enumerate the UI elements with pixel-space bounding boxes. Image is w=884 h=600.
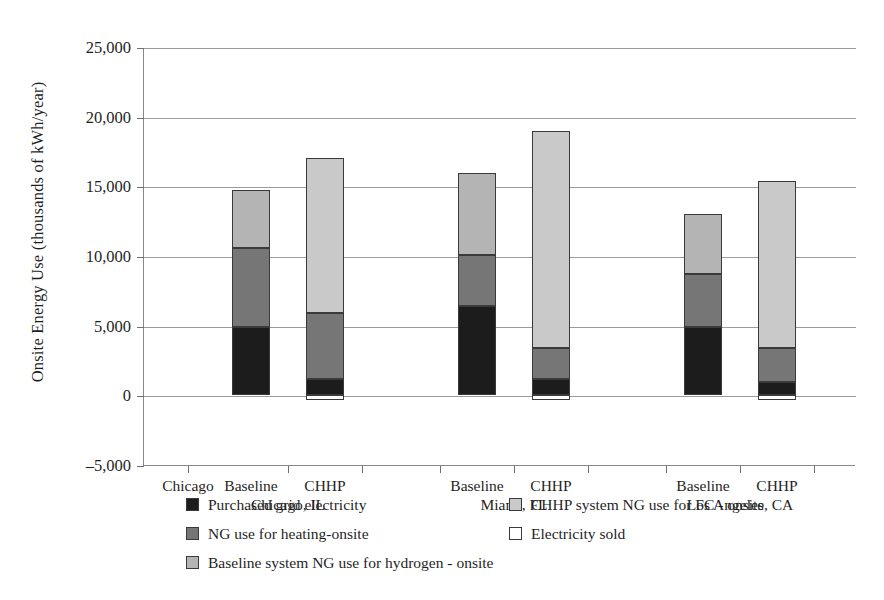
y-axis-tick-label: 10,000 [86,247,131,267]
x-axis-tick [588,466,589,473]
bar-segment[interactable] [532,131,570,348]
bar-segment[interactable] [306,395,344,400]
y-axis-tick [137,257,144,258]
chart-container: Onsite Energy Use (thousands of kWh/year… [0,0,884,600]
bar-segment[interactable] [758,382,796,395]
bar-segment[interactable] [684,274,722,327]
legend-swatch-icon [186,556,199,569]
bar-segment[interactable] [532,348,570,379]
x-axis-tick [440,466,441,473]
bar-stack[interactable] [684,47,722,465]
x-axis-tick [362,466,363,473]
bar-segment[interactable] [458,173,496,255]
y-axis-tick-label: 25,000 [86,38,131,58]
x-axis-tick [814,466,815,473]
bar-segment[interactable] [306,379,344,396]
bar-segment[interactable] [232,190,270,248]
bar-stack[interactable] [758,47,796,465]
legend-item-label: CHHP system NG use for FC - onsite [531,496,764,514]
legend-column-left: Purchased grid electricityNG use for hea… [186,492,516,579]
bar-segment[interactable] [232,248,270,327]
y-axis-tick [137,118,144,119]
x-axis-tick [288,466,289,473]
bar-stack[interactable] [458,47,496,465]
legend-swatch-icon [186,527,199,540]
bar-segment[interactable] [306,158,344,313]
bar-segment[interactable] [758,181,796,348]
legend-item-label: Electricity sold [531,525,625,543]
bar-segment[interactable] [684,214,722,274]
y-axis-tick-label: –5,000 [86,456,131,476]
y-axis-tick-label: 15,000 [86,177,131,197]
y-axis-tick-label: 5,000 [94,317,131,337]
y-axis-tick [137,187,144,188]
bar-segment[interactable] [232,327,270,395]
bar-segment[interactable] [758,348,796,382]
bar-stack[interactable] [306,47,344,465]
x-axis-tick [514,466,515,473]
y-axis-tick [137,466,144,467]
x-axis-tick [188,466,189,473]
bar-segment[interactable] [458,306,496,395]
bar-segment[interactable] [306,313,344,378]
legend-item[interactable]: NG use for heating-onsite [186,521,516,546]
plot-area: ChicagoBaselineChicago, ILCHHPBaselineMi… [143,48,855,466]
y-axis-tick [137,327,144,328]
bar-segment[interactable] [684,327,722,395]
x-axis-tick [666,466,667,473]
y-axis-tick [137,396,144,397]
legend-item[interactable]: Electricity sold [509,521,849,546]
y-axis-tick-label: 0 [123,386,131,406]
y-axis-tick-labels: 25,00020,00015,00010,0005,0000–5,000 [0,48,131,466]
y-axis-tick [137,48,144,49]
bar-segment[interactable] [458,255,496,307]
bar-segment[interactable] [532,379,570,396]
legend-item-label: NG use for heating-onsite [208,525,369,543]
y-axis-tick-label: 20,000 [86,108,131,128]
x-axis-tick [740,466,741,473]
legend-swatch-icon [509,527,522,540]
bar-stack[interactable] [232,47,270,465]
legend-item[interactable]: CHHP system NG use for FC - onsite [509,492,849,517]
bar-stack[interactable] [532,47,570,465]
legend-item[interactable]: Baseline system NG use for hydrogen - on… [186,550,516,575]
legend-item[interactable]: Purchased grid electricity [186,492,516,517]
bar-segment[interactable] [758,395,796,400]
legend-column-right: CHHP system NG use for FC - onsiteElectr… [509,492,849,550]
legend-item-label: Purchased grid electricity [208,496,366,514]
legend-swatch-icon [186,498,199,511]
bar-segment[interactable] [532,395,570,400]
legend-item-label: Baseline system NG use for hydrogen - on… [208,554,493,572]
legend-swatch-icon [509,498,522,511]
